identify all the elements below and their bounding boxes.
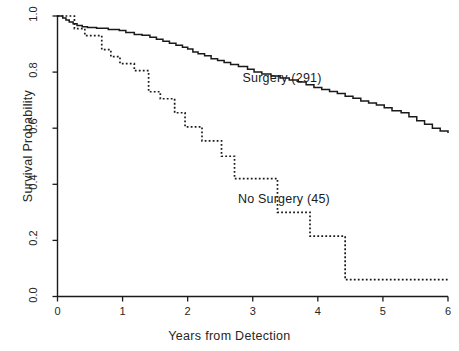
x-tick-label: 6 xyxy=(438,305,458,317)
y-tick-label: 0.6 xyxy=(27,109,39,143)
x-tick-label: 5 xyxy=(373,305,393,317)
y-tick-label: 0.8 xyxy=(27,53,39,87)
kaplan-meier-survival-chart: Survival Probability Years from Detectio… xyxy=(0,0,459,351)
series-path-no-surgery xyxy=(58,16,449,280)
x-tick-label: 0 xyxy=(48,305,68,317)
y-tick-label: 0.0 xyxy=(27,278,39,312)
x-tick-label: 2 xyxy=(178,305,198,317)
x-tick-label: 4 xyxy=(308,305,328,317)
series-label-no-surgery: No Surgery (45) xyxy=(238,192,330,206)
x-tick-label: 3 xyxy=(243,305,263,317)
series-label-surgery: Surgery (291) xyxy=(243,71,322,85)
plot-area xyxy=(0,0,459,351)
y-tick-label: 0.4 xyxy=(27,165,39,199)
y-tick-label: 0.2 xyxy=(27,221,39,255)
x-axis-title: Years from Detection xyxy=(0,329,459,343)
axis-lines xyxy=(53,16,449,302)
x-tick-label: 1 xyxy=(113,305,133,317)
series-lines xyxy=(58,16,449,280)
y-tick-label: 1.0 xyxy=(27,0,39,31)
